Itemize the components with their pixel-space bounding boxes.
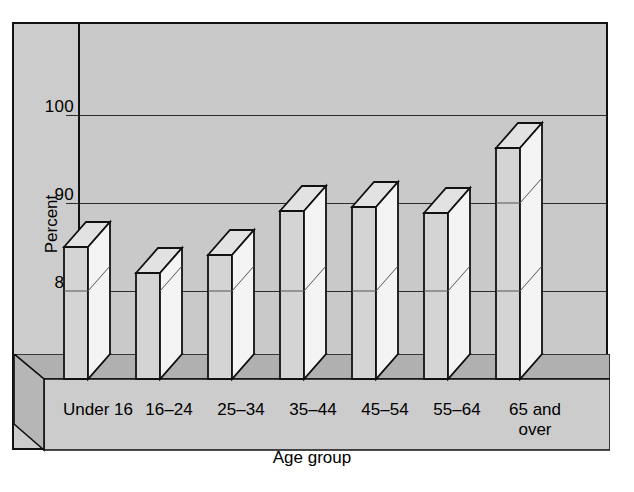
bar-35-44[interactable]	[280, 186, 326, 379]
x-tick-55-64: 55–64	[414, 400, 500, 420]
bar-45-54[interactable]	[352, 182, 398, 379]
x-axis-tick-labels: Under 16 16–24 25–34 35–44 45–54 55–64 6…	[14, 400, 610, 452]
bar-65-and-over[interactable]	[496, 123, 542, 379]
bar-under-16[interactable]	[64, 222, 110, 379]
bars-layer	[14, 24, 610, 452]
chart-frame: 100 90 80 70 Percent	[12, 22, 608, 450]
x-axis-title: Age group	[14, 448, 610, 468]
bar-55-64[interactable]	[424, 188, 470, 379]
x-tick-65-and-over-line2: over	[492, 420, 578, 440]
bar-16-24[interactable]	[136, 248, 182, 379]
x-tick-65-and-over-line1: 65 and	[492, 400, 578, 420]
bar-25-34[interactable]	[208, 230, 254, 379]
